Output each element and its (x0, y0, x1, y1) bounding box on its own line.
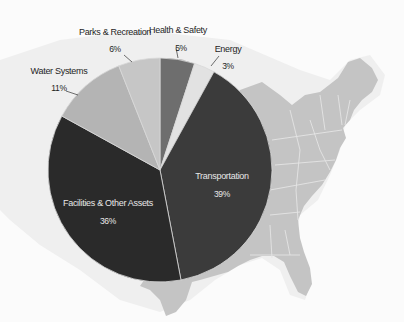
pct-transportation: 39% (214, 189, 230, 199)
pct-energy: 3% (222, 61, 234, 71)
label-energy: Energy (215, 44, 242, 54)
pct-water-systems: 11% (51, 83, 66, 93)
label-facilities: Facilities & Other Assets (63, 198, 153, 208)
label-health-safety: Health & Safety (149, 25, 207, 35)
pct-health-safety: 5% (175, 43, 187, 53)
pct-facilities: 36% (100, 216, 116, 226)
pie-chart (48, 58, 272, 282)
us-map-background (0, 0, 404, 322)
pct-parks-recreation: 6% (109, 44, 121, 54)
chart-stage: Health & Safety 5% Energy 3% Transportat… (0, 0, 404, 322)
label-water-systems: Water Systems (31, 66, 88, 76)
label-transportation: Transportation (195, 171, 249, 181)
label-parks-recreation: Parks & Recreation (79, 27, 151, 37)
